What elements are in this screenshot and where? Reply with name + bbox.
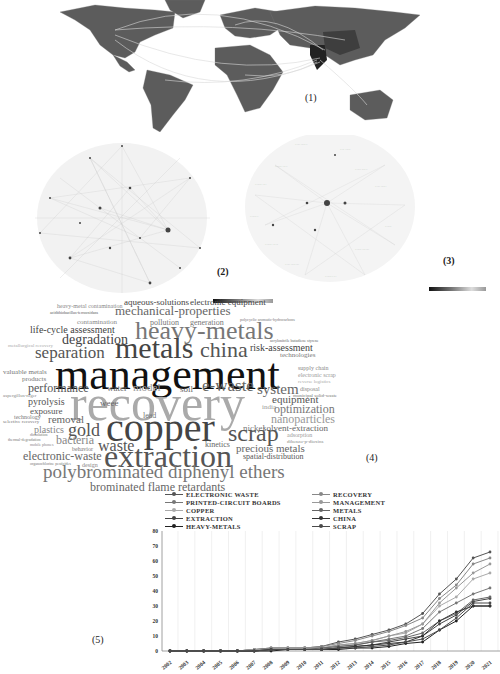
wordcloud-word: disposal — [300, 386, 320, 392]
y-tick-label: 20 — [153, 618, 159, 624]
data-point-marker — [354, 639, 357, 642]
legend-label: COPPER — [186, 507, 215, 514]
data-point-marker — [421, 627, 424, 630]
data-point-marker — [455, 584, 458, 587]
data-point-marker — [489, 587, 492, 590]
data-point-marker — [472, 593, 475, 596]
data-point-marker — [472, 572, 475, 575]
data-point-marker — [354, 647, 357, 650]
data-point-marker — [404, 630, 407, 633]
y-tick-label: 10 — [153, 633, 159, 639]
y-tick-label: 0 — [155, 648, 158, 654]
legend-swatch-icon — [312, 518, 330, 520]
data-point-marker — [472, 563, 475, 566]
data-point-marker — [371, 641, 374, 644]
data-point-marker — [438, 629, 441, 632]
panel-label-4: (4) — [366, 452, 378, 463]
y-tick-label: 40 — [153, 588, 159, 594]
data-point-marker — [489, 602, 492, 605]
data-point-marker — [455, 617, 458, 620]
x-tick-label: 2020 — [464, 659, 476, 671]
world-map-graphic — [55, 0, 430, 132]
data-point-marker — [303, 648, 306, 651]
wordcloud-word: supply chain — [298, 365, 329, 371]
svg-text:------ --------: ------ -------- — [295, 143, 308, 146]
data-point-marker — [371, 635, 374, 638]
data-point-marker — [404, 624, 407, 627]
data-point-marker — [455, 602, 458, 605]
svg-text:---------- ---: ---------- --- — [325, 275, 337, 278]
legend-item: EXTRACTION — [165, 515, 233, 522]
x-tick-label: 2004 — [194, 659, 206, 671]
y-tick-label: 80 — [153, 528, 159, 534]
svg-text:----------: ---------- — [250, 215, 258, 218]
data-point-marker — [388, 635, 391, 638]
data-point-marker — [438, 602, 441, 605]
data-point-marker — [388, 639, 391, 642]
data-point-marker — [270, 648, 273, 651]
x-tick-label: 2015 — [379, 659, 391, 671]
data-point-marker — [371, 645, 374, 648]
data-point-marker — [472, 602, 475, 605]
data-point-marker — [438, 611, 441, 614]
panel-label-1: (1) — [305, 92, 317, 103]
data-point-marker — [489, 551, 492, 554]
series-line — [170, 552, 490, 651]
wordcloud-word: acidithiobacillus-ferrooxidans — [50, 311, 98, 315]
x-tick-label: 2013 — [346, 659, 358, 671]
data-point-marker — [455, 587, 458, 590]
legend-label: MANAGEMENT — [333, 499, 385, 506]
data-point-marker — [185, 650, 188, 653]
legend-swatch-icon — [165, 502, 183, 504]
x-tick-label: 2021 — [480, 659, 492, 671]
line-chart-svg: 0102030405060708020022003200420052006200… — [140, 525, 500, 674]
legend-label: ELECTRONIC WASTE — [186, 491, 259, 498]
legend-item: CHINA — [312, 515, 356, 522]
svg-text:--------- ------: --------- ------ — [265, 243, 278, 246]
data-point-marker — [421, 641, 424, 644]
data-point-marker — [489, 605, 492, 608]
data-point-marker — [421, 635, 424, 638]
svg-text:----- -------: ----- ------- — [340, 148, 351, 151]
legend-swatch-icon — [312, 502, 330, 504]
x-tick-label: 2012 — [329, 659, 341, 671]
svg-text:------ -------: ------ ------- — [375, 185, 387, 188]
data-point-marker — [455, 611, 458, 614]
wordcloud-word: spatial-distribution — [243, 453, 303, 461]
wordcloud-word: bacteria — [56, 434, 94, 446]
x-tick-label: 2018 — [430, 659, 442, 671]
y-tick-label: 70 — [153, 543, 159, 549]
legend-label: PRINTED-CIRCUIT BOARDS — [186, 499, 281, 506]
network-graph-svg-3: ------ ------------- ------- --------- -… — [245, 135, 425, 290]
svg-text:--------- ----: --------- ---- — [255, 183, 267, 186]
svg-text:--------- -----: --------- ----- — [275, 165, 288, 168]
x-tick-label: 2019 — [447, 659, 459, 671]
x-tick-label: 2010 — [295, 659, 307, 671]
legend-item: ELECTRONIC WASTE — [165, 491, 259, 498]
legend-item: METALS — [312, 507, 362, 514]
legend-item: RECOVERY — [312, 491, 372, 498]
network-graph-svg-2 — [30, 138, 215, 298]
data-point-marker — [489, 596, 492, 599]
y-tick-label: 30 — [153, 603, 159, 609]
data-point-marker — [489, 557, 492, 560]
legend-item: MANAGEMENT — [312, 499, 385, 506]
y-tick-label: 60 — [153, 558, 159, 564]
data-point-marker — [421, 632, 424, 635]
data-point-marker — [438, 597, 441, 600]
data-point-marker — [489, 563, 492, 566]
legend-item: PRINTED-CIRCUIT BOARDS — [165, 499, 281, 506]
legend-label: CHINA — [333, 515, 356, 522]
legend-label: METALS — [333, 507, 362, 514]
panel-label-5: (5) — [92, 634, 104, 645]
data-point-marker — [236, 650, 239, 653]
data-point-marker — [421, 638, 424, 641]
svg-text:------- -------: ------- ------- — [355, 168, 368, 171]
data-point-marker — [438, 593, 441, 596]
wordcloud-word: polybrominated diphenyl ethers — [43, 462, 285, 481]
data-point-marker — [472, 599, 475, 602]
legend-item: COPPER — [165, 507, 215, 514]
data-point-marker — [202, 650, 205, 653]
data-point-marker — [455, 596, 458, 599]
data-point-marker — [455, 578, 458, 581]
